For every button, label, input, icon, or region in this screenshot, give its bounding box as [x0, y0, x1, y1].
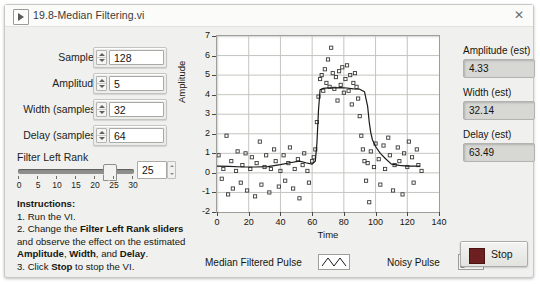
title-bar: 19.8-Median Filtering.vi ✕	[5, 5, 533, 27]
slider-tick-25: 25	[109, 180, 118, 190]
control-samples: Samples 128	[17, 47, 167, 69]
instr-5a: 3. Click	[17, 261, 51, 272]
x-tick-mark	[344, 212, 345, 216]
instructions-line-3: and observe the effect on the estimated	[17, 236, 212, 249]
x-tick-mark	[376, 212, 377, 216]
x-tick-label: 100	[368, 217, 383, 227]
instructions-line-4: Amplitude, Width, and Delay.	[17, 248, 212, 261]
indicator-value-width-est: 32.14	[463, 101, 535, 120]
instructions-line-1: 1. Run the VI.	[17, 211, 212, 224]
window-title: 19.8-Median Filtering.vi	[33, 9, 145, 21]
plot-canvas	[217, 36, 439, 212]
x-axis-label: Time	[216, 229, 440, 240]
control-width-samples: Width (samples) 32	[7, 99, 167, 121]
y-tick-label: 5	[192, 69, 210, 79]
y-tick-mark	[212, 56, 216, 57]
plot-legend: Median Filtered Pulse Noisy Pulse	[205, 253, 415, 272]
y-tick-mark	[212, 36, 216, 37]
instr-4f: .	[145, 248, 148, 259]
indicator-value-amplitude-est: 4.33	[463, 59, 535, 78]
x-tick-mark	[217, 212, 218, 216]
instr-4c: Width	[69, 248, 96, 259]
y-tick-label: 1	[192, 147, 210, 157]
instructions-line-2: 2. Change the Filter Left Rank sliders	[17, 223, 212, 236]
y-tick-mark	[212, 173, 216, 174]
indicator-label-amplitude-est: Amplitude (est)	[463, 45, 530, 56]
close-icon[interactable]: ✕	[509, 7, 529, 24]
legend-label-filtered: Median Filtered Pulse	[205, 257, 302, 268]
y-tick-mark	[212, 114, 216, 115]
y-tick-label: 4	[192, 89, 210, 99]
slider-label: Filter Left Rank	[17, 151, 88, 163]
slider-value-input[interactable]: 25	[137, 161, 167, 179]
spinner-width-samples[interactable]	[96, 102, 107, 117]
indicator-value-delay-est: 63.49	[463, 143, 535, 162]
x-tick-label: 40	[275, 217, 285, 227]
slider-tick-20: 20	[90, 180, 99, 190]
control-label-delay-samples: Delay (samples)	[23, 129, 99, 141]
waveform-graph: Amplitude Time -2-1012345670204060801001…	[188, 31, 448, 245]
x-tick-label: 60	[307, 217, 317, 227]
y-tick-label: 2	[192, 128, 210, 138]
control-label-width-samples: Width (samples)	[23, 103, 99, 115]
indicator-label-width-est: Width (est)	[463, 87, 511, 98]
spinner-delay-samples[interactable]	[96, 128, 107, 143]
control-amplitude: Amplitude 5	[17, 73, 167, 95]
vi-window: 19.8-Median Filtering.vi ✕ Samples 128 A…	[4, 4, 534, 278]
instr-4d: , and	[96, 248, 120, 259]
instr-2a: 2. Change the	[17, 223, 80, 234]
legend-swatch-filtered[interactable]	[318, 254, 350, 270]
stepper-width-samples[interactable]: 32	[93, 99, 167, 120]
x-tick-label: 80	[339, 217, 349, 227]
y-tick-mark	[212, 75, 216, 76]
x-tick-mark	[280, 212, 281, 216]
legend-line-glyph	[319, 255, 349, 269]
stepper-samples[interactable]: 128	[93, 47, 167, 68]
spinner-amplitude[interactable]	[96, 76, 107, 91]
slider-tick-15: 15	[71, 180, 80, 190]
stop-button-label: Stop	[491, 248, 513, 260]
spinner-samples[interactable]	[96, 50, 107, 65]
stepper-delay-samples[interactable]: 64	[93, 125, 167, 146]
slider-value-spinner[interactable]	[167, 161, 176, 179]
instructions-heading: Instructions:	[17, 198, 212, 211]
instr-4e: Delay	[120, 248, 146, 259]
y-tick-mark	[212, 153, 216, 154]
y-tick-mark	[212, 212, 216, 213]
legend-label-noisy: Noisy Pulse	[387, 257, 440, 268]
stop-button[interactable]: Stop	[460, 241, 528, 267]
instr-5b: Stop	[51, 261, 72, 272]
filter-left-rank-control: Filter Left Rank 0 5 10 15 20 25 30 25	[17, 151, 167, 195]
indicator-label-delay-est: Delay (est)	[463, 129, 511, 140]
slider-tick-10: 10	[52, 180, 61, 190]
x-tick-mark	[312, 212, 313, 216]
y-tick-label: 7	[192, 30, 210, 40]
x-tick-mark	[249, 212, 250, 216]
y-tick-label: -2	[192, 206, 210, 216]
run-arrow-icon[interactable]	[13, 9, 29, 25]
control-label-amplitude: Amplitude	[52, 77, 99, 89]
x-tick-label: 140	[431, 217, 446, 227]
slider-tick-0: 0	[17, 180, 22, 190]
input-delay-samples[interactable]: 64	[109, 128, 164, 143]
control-delay-samples: Delay (samples) 64	[7, 125, 167, 147]
x-tick-label: 20	[244, 217, 254, 227]
input-samples[interactable]: 128	[109, 50, 164, 65]
x-tick-label: 120	[400, 217, 415, 227]
input-amplitude[interactable]: 5	[109, 76, 164, 91]
instructions-block: Instructions: 1. Run the VI. 2. Change t…	[17, 198, 212, 274]
y-axis-label: Amplitude	[176, 61, 187, 103]
y-tick-mark	[212, 95, 216, 96]
instr-2b: Filter Left Rank sliders	[80, 223, 183, 234]
y-tick-mark	[212, 134, 216, 135]
slider-tick-scale: 0 5 10 15 20 25 30	[17, 176, 137, 194]
slider-tick-30: 30	[128, 180, 137, 190]
input-width-samples[interactable]: 32	[109, 102, 164, 117]
instr-4a: Amplitude	[17, 248, 64, 259]
stepper-amplitude[interactable]: 5	[93, 73, 167, 94]
x-tick-mark	[407, 212, 408, 216]
plot-area[interactable]	[216, 35, 440, 213]
y-tick-label: 0	[192, 167, 210, 177]
y-tick-label: 3	[192, 108, 210, 118]
x-tick-label: 0	[214, 217, 219, 227]
